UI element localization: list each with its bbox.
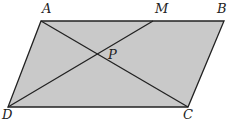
label-P: P (107, 47, 117, 62)
label-A: A (41, 1, 51, 16)
label-C: C (183, 107, 193, 120)
parallelogram-ABCD (8, 21, 224, 107)
label-D: D (1, 107, 13, 120)
parallelogram-diagram: A M B P D C (0, 0, 231, 120)
label-B: B (216, 1, 227, 16)
label-M: M (154, 1, 169, 16)
